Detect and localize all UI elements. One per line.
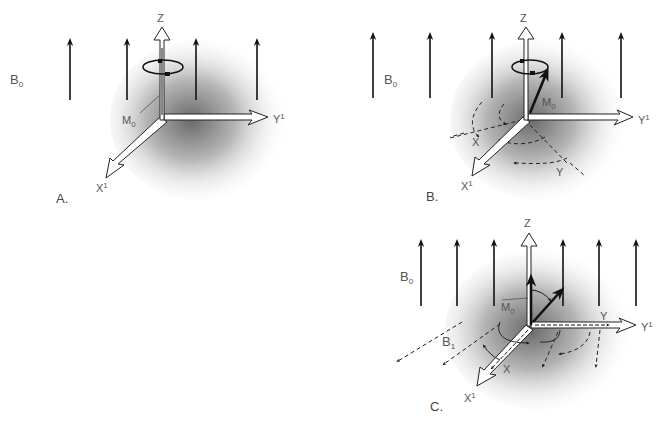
z-label: Z (520, 12, 527, 24)
rotating-x-label: X (503, 363, 511, 375)
shadow (445, 250, 635, 410)
b0-label: B0 (400, 269, 414, 286)
x-prime-label: X1 (464, 391, 476, 404)
y-prime-label: Y1 (641, 320, 653, 333)
panel-b-letter: B. (426, 189, 438, 204)
panel-c: B0 B1 M0 Z Y1 Y X X (398, 217, 653, 414)
panel-a-letter: A. (56, 191, 68, 206)
x-prime-label: X1 (461, 179, 473, 192)
z-label: Z (157, 12, 164, 24)
z-label: Z (524, 217, 531, 229)
panel-b: B0 M0 Z Y1 X1 X Y B. (373, 12, 650, 204)
b0-label: B0 (10, 72, 24, 89)
panel-c-letter: C. (430, 399, 443, 414)
rotating-x-label: X (472, 136, 480, 148)
y-prime-label: Y1 (638, 113, 650, 126)
nmr-figure: B0 M0 Z Y1 X1 A. B0 (0, 0, 663, 421)
rotating-y-label: Y (600, 310, 608, 322)
b0-label: B0 (384, 72, 398, 89)
x-prime-label: X1 (96, 181, 108, 194)
rotating-y-label: Y (556, 166, 564, 178)
panel-a: B0 M0 Z Y1 X1 A. (10, 12, 290, 206)
